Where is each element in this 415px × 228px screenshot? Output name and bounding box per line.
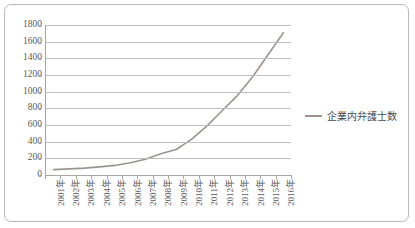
x-tick-label: 2007年 (149, 179, 158, 206)
x-tick-label: 2005年 (118, 179, 127, 206)
x-tick-label: 2001年 (57, 179, 66, 206)
x-tick-label: 2013年 (241, 179, 250, 206)
y-tick-label: 200 (8, 154, 42, 164)
y-tick-label: 1000 (8, 87, 42, 97)
y-tick-mark (39, 158, 42, 159)
y-tick-label: 800 (8, 104, 42, 114)
y-tick-label: 1200 (8, 70, 42, 80)
gridline (46, 125, 291, 126)
x-tick-label: 2006年 (134, 179, 143, 206)
x-axis: 2001年2002年2003年2004年2005年2006年2007年2008年… (45, 179, 291, 227)
chart-legend: 企業内弁護士数 (305, 108, 397, 123)
legend-label: 企業内弁護士数 (327, 108, 397, 123)
y-tick-label: 0 (8, 170, 42, 180)
gridline (46, 108, 291, 109)
x-tick-label: 2014年 (257, 179, 266, 206)
x-tick-label: 2011年 (210, 179, 219, 206)
legend-line-swatch (305, 115, 322, 117)
gridline (46, 75, 291, 76)
y-tick-mark (39, 108, 42, 109)
gridline (46, 158, 291, 159)
y-axis: 020040060080010001200140016001800 (5, 25, 42, 175)
x-tick-label: 2003年 (87, 179, 96, 206)
x-tick-label: 2015年 (272, 179, 281, 206)
x-tick-label: 2010年 (195, 179, 204, 206)
y-tick-label: 600 (8, 120, 42, 130)
gridline (46, 92, 291, 93)
y-tick-label: 400 (8, 137, 42, 147)
x-tick-label: 2004年 (103, 179, 112, 206)
y-tick-mark (39, 75, 42, 76)
y-tick-mark (39, 25, 42, 26)
series-line-in-house-lawyers (46, 25, 291, 175)
gridline (46, 25, 291, 26)
y-tick-mark (39, 58, 42, 59)
x-tick-label: 2012年 (226, 179, 235, 206)
plot-area (45, 25, 291, 175)
x-tick-label: 2008年 (164, 179, 173, 206)
y-tick-mark (39, 175, 42, 176)
y-tick-mark (39, 42, 42, 43)
y-tick-label: 1600 (8, 37, 42, 47)
gridline (46, 58, 291, 59)
y-tick-mark (39, 142, 42, 143)
gridline (46, 42, 291, 43)
x-tick-label: 2009年 (180, 179, 189, 206)
y-tick-label: 1400 (8, 54, 42, 64)
chart-frame: 020040060080010001200140016001800 2001年2… (4, 4, 409, 222)
y-tick-label: 1800 (8, 20, 42, 30)
y-tick-mark (39, 125, 42, 126)
x-tick-label: 2002年 (72, 179, 81, 206)
y-tick-mark (39, 92, 42, 93)
x-tick-label: 2016年 (287, 179, 296, 206)
gridline (46, 142, 291, 143)
